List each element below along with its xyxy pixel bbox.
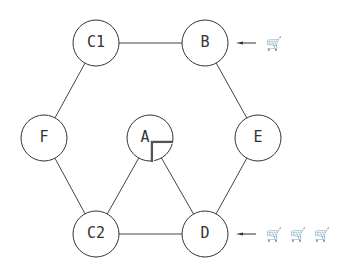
node-a[interactable]: A <box>127 115 173 161</box>
robot-icon: 🛒 <box>266 36 282 51</box>
node-c2[interactable]: C2 <box>73 211 119 257</box>
node-label: F <box>39 128 48 146</box>
node-label: A <box>140 128 149 146</box>
node-label: E <box>253 128 262 146</box>
robot-icon: 🛒 <box>314 227 330 242</box>
robot-icon: 🛒 <box>290 227 306 242</box>
arrival-b: 🛒 <box>236 36 282 51</box>
edge-b-e <box>216 63 247 118</box>
node-b[interactable]: B <box>182 20 228 66</box>
edge-e-d <box>216 158 247 214</box>
node-label: B <box>200 33 209 51</box>
arrow-left-icon <box>236 42 243 45</box>
node-label: C2 <box>87 224 105 242</box>
node-f[interactable]: F <box>21 115 67 161</box>
edge-c1-f <box>55 63 85 118</box>
node-label: C1 <box>87 33 105 51</box>
robot-icon: 🛒 <box>266 227 282 242</box>
edge-a-c2 <box>107 158 138 214</box>
graph-diagram: C1BFAEC2D 🛒🛒🛒🛒 <box>0 0 353 273</box>
node-e[interactable]: E <box>235 115 281 161</box>
arrow-left-icon <box>236 233 243 236</box>
node-label: D <box>200 224 209 242</box>
node-circle <box>127 115 173 161</box>
edge-a-d <box>161 158 193 214</box>
node-c1[interactable]: C1 <box>73 20 119 66</box>
edge-f-c2 <box>55 158 85 214</box>
nodes: C1BFAEC2D <box>21 20 281 257</box>
node-d[interactable]: D <box>182 211 228 257</box>
arrival-d: 🛒🛒🛒 <box>236 227 330 242</box>
